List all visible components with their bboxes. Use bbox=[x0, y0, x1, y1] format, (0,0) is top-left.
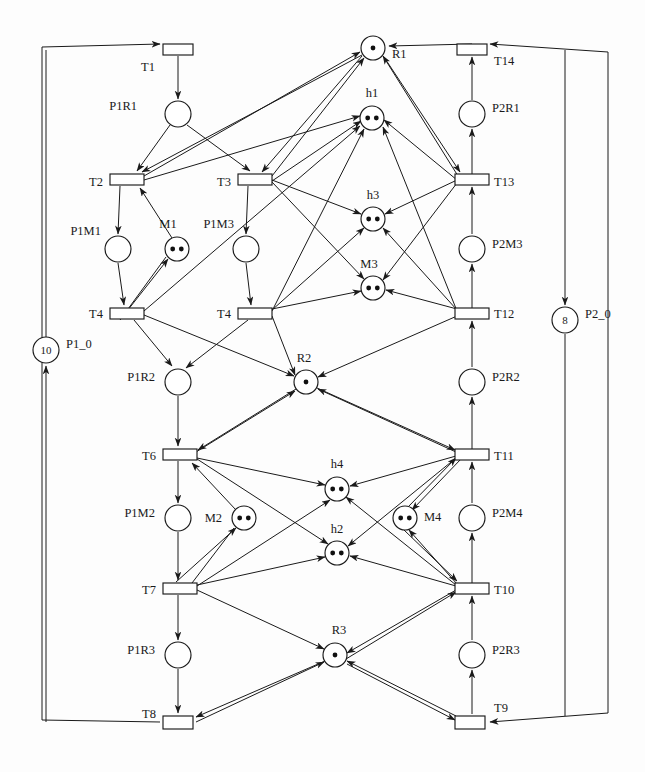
place-P2R3[interactable] bbox=[459, 642, 485, 668]
arc-T7-to-M2 bbox=[176, 528, 236, 582]
transition-T13[interactable] bbox=[455, 174, 489, 185]
transition-bar-T13 bbox=[455, 174, 489, 185]
transition-bar-T7 bbox=[163, 583, 197, 594]
place-P1R1[interactable] bbox=[165, 101, 191, 127]
place-circle-P1M3 bbox=[233, 236, 259, 262]
place-label-P1R1: P1R1 bbox=[109, 99, 137, 113]
token-dot bbox=[366, 217, 371, 222]
place-circle-P2R2 bbox=[459, 369, 485, 395]
transition-T8[interactable] bbox=[163, 716, 193, 729]
transition-T4b[interactable] bbox=[238, 308, 272, 319]
place-P2M3[interactable] bbox=[459, 236, 485, 262]
place-M4[interactable] bbox=[393, 506, 417, 530]
place-circle-h4 bbox=[325, 477, 349, 501]
place-label-P2M4: P2M4 bbox=[492, 506, 523, 520]
transition-T3[interactable] bbox=[238, 174, 272, 185]
place-label-P2M3: P2M3 bbox=[492, 237, 523, 251]
place-P2R1[interactable] bbox=[459, 101, 485, 127]
transition-label-T7: T7 bbox=[142, 583, 156, 597]
transition-label-T4a: T4 bbox=[89, 307, 104, 321]
transition-T7[interactable] bbox=[163, 583, 197, 594]
transition-label-T13: T13 bbox=[494, 175, 514, 189]
place-M1[interactable] bbox=[165, 237, 189, 261]
arc-T2-to-P1M1 bbox=[118, 186, 120, 234]
arc-P1M1-to-T4a bbox=[118, 263, 124, 305]
transition-bar-T2 bbox=[110, 174, 144, 185]
place-circle-P2R3 bbox=[459, 642, 485, 668]
arc-T8-to-R3 bbox=[196, 662, 324, 722]
arc-T10-to-h2 bbox=[350, 556, 456, 586]
token-dot bbox=[237, 516, 242, 521]
arc-T3-to-h1 bbox=[272, 121, 361, 181]
token-count-P1_0: 10 bbox=[41, 344, 53, 356]
transition-T4a[interactable] bbox=[110, 308, 144, 319]
token-dot bbox=[339, 487, 344, 492]
place-R3[interactable] bbox=[323, 643, 347, 667]
transition-label-T6: T6 bbox=[142, 449, 156, 463]
place-P1R2[interactable] bbox=[165, 369, 191, 395]
arc-T4b-to-h3 bbox=[272, 228, 364, 310]
place-circle-P2R1 bbox=[459, 101, 485, 127]
place-h3[interactable] bbox=[361, 207, 385, 231]
place-R2[interactable] bbox=[294, 370, 318, 394]
place-P2R2[interactable] bbox=[459, 369, 485, 395]
place-label-M2: M2 bbox=[205, 511, 222, 525]
frame-top-right-arc bbox=[490, 44, 608, 52]
arc-T3-to-M3 bbox=[272, 182, 364, 279]
place-circle-P2M4 bbox=[459, 505, 485, 531]
transition-T12[interactable] bbox=[455, 308, 489, 319]
token-dot bbox=[179, 247, 184, 252]
place-P1R3[interactable] bbox=[165, 642, 191, 668]
transition-T14[interactable] bbox=[457, 44, 487, 55]
arc-R3-to-T8 bbox=[196, 661, 325, 717]
transition-T10[interactable] bbox=[455, 583, 489, 594]
place-P2_0[interactable]: 8 bbox=[552, 307, 578, 333]
place-circle-M1 bbox=[165, 237, 189, 261]
place-P1_0[interactable]: 10 bbox=[33, 337, 59, 363]
place-circle-P1M2 bbox=[165, 505, 191, 531]
place-label-M1: M1 bbox=[159, 217, 176, 231]
token-dot bbox=[330, 487, 335, 492]
transition-bar-T4a bbox=[110, 308, 144, 319]
place-M3[interactable] bbox=[361, 276, 385, 300]
transition-T1[interactable] bbox=[163, 44, 193, 55]
place-h1[interactable] bbox=[360, 106, 384, 130]
arc-T12-to-M3 bbox=[386, 290, 457, 309]
transition-T6[interactable] bbox=[163, 449, 197, 460]
arc-M2-to-T7 bbox=[192, 528, 234, 583]
place-circle-P1R1 bbox=[165, 101, 191, 127]
place-label-h2: h2 bbox=[331, 522, 344, 536]
token-dot bbox=[366, 286, 371, 291]
transition-T2[interactable] bbox=[110, 174, 144, 185]
place-P1M1[interactable] bbox=[105, 236, 131, 262]
place-label-P2R3: P2R3 bbox=[492, 643, 520, 657]
place-P1M2[interactable] bbox=[165, 505, 191, 531]
transition-T9[interactable] bbox=[455, 716, 485, 729]
arc-T4a-to-R2 bbox=[144, 315, 294, 376]
place-h2[interactable] bbox=[325, 541, 349, 565]
arc-R3-to-T10 bbox=[346, 592, 456, 659]
place-circle-h2 bbox=[325, 541, 349, 565]
transition-label-T4b: T4 bbox=[217, 307, 232, 321]
token-count-P2_0: 8 bbox=[562, 314, 568, 326]
place-P2M4[interactable] bbox=[459, 505, 485, 531]
arc-T9-to-R3 bbox=[347, 661, 456, 716]
place-h4[interactable] bbox=[325, 477, 349, 501]
token-dot bbox=[374, 116, 379, 121]
transition-bar-T12 bbox=[455, 308, 489, 319]
arc-T4b-to-R2 bbox=[272, 316, 295, 375]
frame-top-left-arc bbox=[42, 44, 160, 47]
place-label-R2: R2 bbox=[297, 351, 312, 365]
transition-bar-T10 bbox=[455, 583, 489, 594]
place-M2[interactable] bbox=[232, 506, 256, 530]
place-P1M3[interactable] bbox=[233, 236, 259, 262]
place-circle-P1M1 bbox=[105, 236, 131, 262]
transition-T11[interactable] bbox=[455, 449, 489, 460]
place-label-P1M1: P1M1 bbox=[70, 224, 101, 238]
transition-bar-T6 bbox=[163, 449, 197, 460]
place-R1[interactable] bbox=[361, 36, 385, 60]
token-dot bbox=[333, 653, 338, 658]
place-circle-h1 bbox=[360, 106, 384, 130]
place-label-P1R2: P1R2 bbox=[127, 370, 155, 384]
arc-T11-to-R2 bbox=[318, 389, 456, 452]
